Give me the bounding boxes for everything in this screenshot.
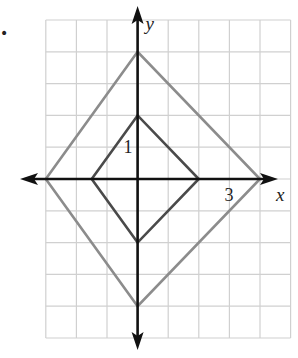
coordinate-axes [20,6,278,350]
x-tick-label: 3 [224,185,233,205]
axis-labels: xy31 [124,13,285,205]
coordinate-plane-figure: • xy31 [0,0,298,358]
y-axis-label: y [144,13,155,34]
y-tick-label: 1 [124,137,133,157]
problem-marker: • [0,25,8,41]
x-axis-label: x [275,184,285,205]
